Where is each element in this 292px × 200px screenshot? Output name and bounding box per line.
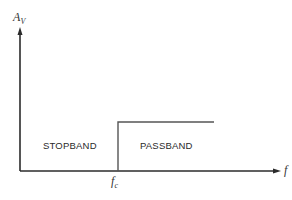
y-axis-arrow-icon <box>18 27 23 35</box>
y-axis-label: AV <box>13 10 26 26</box>
cutoff-label-sub: c <box>115 181 119 190</box>
y-axis-label-main: A <box>13 10 21 24</box>
x-axis-label: f <box>284 163 288 178</box>
diagram-canvas <box>0 0 292 200</box>
passband-label: PASSBAND <box>140 140 193 151</box>
x-axis-arrow-icon <box>273 169 281 174</box>
y-axis-label-sub: V <box>21 17 26 26</box>
stopband-label: STOPBAND <box>43 140 97 151</box>
cutoff-frequency-label: fc <box>111 174 118 190</box>
